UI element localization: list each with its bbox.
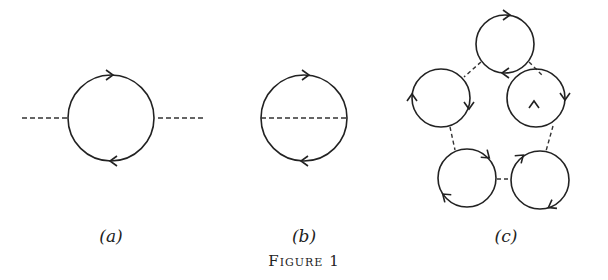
label-a: (a) — [99, 226, 122, 246]
diagram-b — [261, 70, 347, 166]
label-c: (c) — [495, 226, 518, 246]
figure-caption: Figure 1 — [268, 252, 339, 270]
diagram-a — [22, 70, 204, 166]
diagram-c — [407, 10, 570, 212]
label-b: (b) — [292, 226, 316, 246]
